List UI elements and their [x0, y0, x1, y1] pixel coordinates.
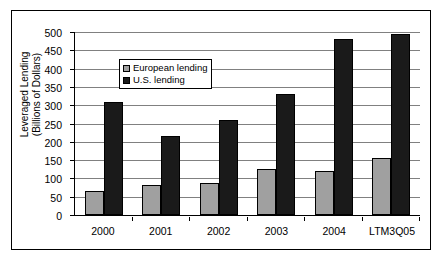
- legend-swatch-icon: [123, 65, 130, 72]
- y-axis-tick-label: 100: [44, 173, 62, 185]
- bar-us-2003: [276, 94, 295, 215]
- bar-us-2001: [161, 136, 180, 215]
- bar-group: [372, 32, 410, 215]
- y-axis-tick: 0: [70, 215, 75, 216]
- bar-european-LTM3Q05: [372, 158, 391, 215]
- x-axis-tick: [247, 217, 248, 221]
- x-axis-tick: [132, 217, 133, 221]
- chart-figure: Leveraged Lending (Billions of Dollars) …: [11, 10, 431, 250]
- bar-us-LTM3Q05: [391, 34, 410, 215]
- legend-label: European lending: [133, 62, 207, 74]
- bar-european-2004: [315, 171, 334, 215]
- y-axis-tick-label: 400: [44, 64, 62, 76]
- bar-us-2002: [219, 120, 238, 215]
- bar-european-2002: [200, 183, 219, 215]
- x-axis-tick: [189, 217, 190, 221]
- bar-european-2001: [142, 185, 161, 215]
- x-axis-labels: 20002001200220032004LTM3Q05: [74, 217, 421, 237]
- bar-group: [257, 32, 295, 215]
- bar-european-2003: [257, 169, 276, 215]
- y-axis-tick-label: 500: [44, 27, 62, 39]
- bar-group: [315, 32, 353, 215]
- legend-item: U.S. lending: [123, 74, 207, 86]
- bar-us-2004: [334, 39, 353, 215]
- y-axis-tick-label: 0: [56, 210, 62, 222]
- x-axis-label-2003: 2003: [248, 217, 306, 237]
- legend-item: European lending: [123, 62, 207, 74]
- bar-group: [85, 32, 123, 215]
- x-axis-label-2000: 2000: [74, 217, 132, 237]
- y-axis-tick-label: 250: [44, 119, 62, 131]
- y-axis-tick-label: 450: [44, 45, 62, 57]
- legend-label: U.S. lending: [133, 74, 185, 86]
- y-axis-tick-label: 300: [44, 100, 62, 112]
- y-axis-title: Leveraged Lending (Billions of Dollars): [19, 15, 42, 175]
- y-axis-tick-label: 200: [44, 137, 62, 149]
- chart-legend: European lendingU.S. lending: [119, 59, 212, 89]
- x-axis-label-2002: 2002: [190, 217, 248, 237]
- x-axis-tick: [304, 217, 305, 221]
- bar-european-2000: [85, 191, 104, 215]
- legend-swatch-icon: [123, 77, 130, 84]
- x-axis-label-2004: 2004: [305, 217, 363, 237]
- y-axis-tick-label: 50: [50, 192, 62, 204]
- x-axis-label-2001: 2001: [132, 217, 190, 237]
- x-axis-tick: [419, 217, 420, 221]
- x-axis-tick: [362, 217, 363, 221]
- y-axis-tick-label: 150: [44, 155, 62, 167]
- bar-us-2000: [104, 102, 123, 215]
- x-axis-label-LTM3Q05: LTM3Q05: [363, 217, 421, 237]
- y-axis-tick-label: 350: [44, 82, 62, 94]
